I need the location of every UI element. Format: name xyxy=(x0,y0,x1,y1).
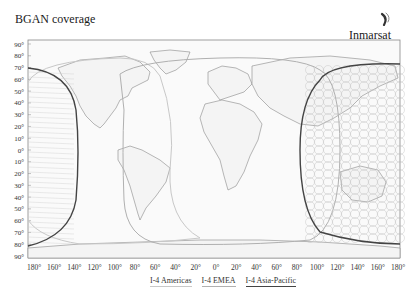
lat-tick-label: 20° xyxy=(14,170,24,178)
lon-tick-label: 20° xyxy=(191,263,202,272)
lon-tick-label: 160° xyxy=(47,263,61,272)
lon-tick-label: 120° xyxy=(330,263,344,272)
lat-tick-label: 30° xyxy=(14,182,24,190)
legend-emea: I-4 EMEA xyxy=(202,276,236,287)
lon-tick-label: 140° xyxy=(350,263,364,272)
lat-tick-label: 50° xyxy=(14,88,24,96)
lat-tick-label: 90° xyxy=(14,41,24,49)
lat-tick-label: 40° xyxy=(14,99,24,107)
lon-tick-label: 40° xyxy=(251,263,262,272)
lon-tick-label: 80° xyxy=(292,263,303,272)
lat-tick-label: 10° xyxy=(14,135,24,143)
lat-tick-label: 30° xyxy=(14,111,24,119)
lon-tick-label: 180° xyxy=(27,263,41,272)
lat-tick-label: 50° xyxy=(14,205,24,213)
lon-tick-label: 100° xyxy=(310,263,324,272)
lon-tick-label: 0° xyxy=(213,263,220,272)
lon-tick-label: 60° xyxy=(150,263,161,272)
lat-tick-label: 60° xyxy=(14,217,24,225)
lon-tick-label: 180° xyxy=(391,263,405,272)
coverage-map: 90°80°70°60°50°40°30°20°10°0°10°20°30°40… xyxy=(0,0,417,304)
lat-tick-label: 90° xyxy=(14,253,24,261)
lat-tick-label: 40° xyxy=(14,194,24,202)
lon-tick-label: 140° xyxy=(67,263,81,272)
lat-tick-label: 80° xyxy=(14,52,24,60)
lon-tick-label: 160° xyxy=(371,263,385,272)
lat-tick-label: 60° xyxy=(14,76,24,84)
lat-tick-label: 20° xyxy=(14,123,24,131)
lon-tick-label: 20° xyxy=(231,263,242,272)
legend-asia-pacific: I-4 Asia-Pacific xyxy=(246,276,296,287)
legend: I-4 Americas I-4 EMEA I-4 Asia-Pacific xyxy=(150,276,296,287)
lon-tick-label: 80° xyxy=(130,263,141,272)
lat-tick-label: 70° xyxy=(14,229,24,237)
lat-tick-label: 10° xyxy=(14,158,24,166)
lat-tick-label: 70° xyxy=(14,64,24,72)
lat-tick-label: 80° xyxy=(14,241,24,249)
lon-tick-label: 120° xyxy=(88,263,102,272)
lon-tick-label: 60° xyxy=(271,263,282,272)
lon-tick-label: 100° xyxy=(108,263,122,272)
legend-americas: I-4 Americas xyxy=(150,276,192,287)
lon-tick-label: 40° xyxy=(170,263,181,272)
lat-tick-label: 0° xyxy=(18,147,25,155)
